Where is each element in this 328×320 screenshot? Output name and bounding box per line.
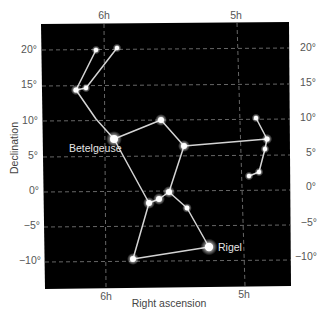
y-tick-left-15: 15°	[21, 78, 37, 90]
y-tick-left-20: 20°	[21, 43, 37, 55]
star-alnilam	[153, 193, 165, 205]
star-shield1	[252, 114, 261, 123]
x-axis-top: 6h 5h	[98, 9, 242, 21]
star-shield3	[261, 145, 270, 154]
star-club2	[113, 44, 122, 53]
star-sword	[182, 203, 192, 213]
star-shield4	[255, 168, 264, 177]
x-tick-bottom-5h: 5h	[238, 288, 250, 300]
star-mintaka	[163, 186, 175, 198]
y-tick-right-20: 20°	[300, 41, 316, 53]
y-tick-left-10: 10°	[22, 114, 38, 126]
y-tick-left-0: 0°	[29, 184, 39, 196]
star-saiph	[127, 253, 139, 265]
label-rigel: Rigel	[218, 241, 242, 253]
star-rigel	[201, 239, 218, 256]
y-axis-title: Declination	[8, 122, 20, 174]
x-tick-top-6h: 6h	[98, 9, 110, 21]
label-betelgeuse: Betelgeuse	[69, 142, 122, 154]
y-tick-right-minus10: −10°	[295, 250, 317, 262]
star-shield5	[245, 172, 254, 181]
x-axis-title: Right ascension	[132, 297, 207, 309]
orion-star-chart: Betelgeuse Rigel 6h 5h 6h 5h Right ascen…	[0, 0, 328, 320]
star-meissa	[155, 114, 167, 126]
star-arm1	[71, 85, 81, 95]
star-bellatrix	[178, 140, 190, 152]
y-tick-right-15: 15°	[300, 76, 316, 88]
y-tick-right-5: 5°	[306, 146, 316, 158]
star-shield2	[262, 134, 272, 144]
y-tick-left-minus10: −10°	[19, 254, 41, 266]
x-axis-bottom: 6h 5h Right ascension	[100, 288, 250, 309]
y-tick-left-5: 5°	[28, 149, 38, 161]
y-axis-left: 20° 15° 10° 5° 0° −5° −10° Declination	[8, 43, 41, 266]
star-arm2	[82, 84, 91, 93]
y-axis-right: 20° 15° 10° 5° 0° −5° −10°	[295, 41, 317, 262]
y-tick-right-10: 10°	[300, 111, 316, 123]
x-tick-top-5h: 5h	[230, 9, 242, 21]
y-tick-right-minus5: −5°	[301, 216, 317, 228]
y-tick-right-0: 0°	[306, 180, 316, 192]
x-tick-bottom-6h: 6h	[100, 290, 112, 302]
star-club1	[92, 46, 101, 55]
y-tick-left-minus5: −5°	[24, 219, 40, 231]
